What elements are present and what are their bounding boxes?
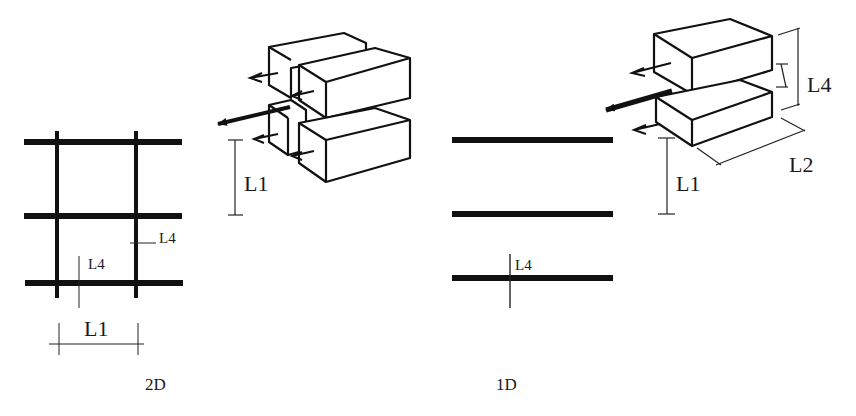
label-blocks-1d-l2: L2 — [789, 152, 813, 177]
label-2d-l1: L1 — [84, 316, 108, 341]
dimension-marks-blocks-2d — [228, 140, 243, 215]
diagram-canvas: L4 L4 L1 2D L1 — [0, 0, 856, 416]
caption-2d: 2D — [145, 375, 166, 394]
caption-1d: 1D — [496, 375, 517, 394]
grid-2d — [24, 131, 183, 298]
label-1d-l4: L4 — [515, 257, 532, 273]
label-blocks-1d-l4: L4 — [807, 72, 831, 97]
blocks-2d-illustration — [269, 33, 410, 182]
label-2d-l4-vertical: L4 — [88, 256, 105, 272]
label-blocks-2d-l1: L1 — [244, 171, 268, 196]
blocks-1d-illustration — [654, 19, 772, 146]
label-2d-l4-horizontal: L4 — [159, 230, 176, 246]
grid-1d — [452, 140, 613, 278]
label-blocks-1d-l1: L1 — [676, 171, 700, 196]
